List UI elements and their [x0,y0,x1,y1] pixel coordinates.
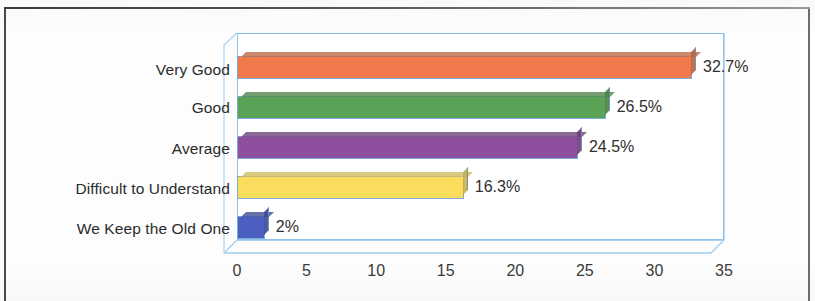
bar-difficult-to-understand [237,176,464,199]
category-label-difficult-to-understand: Difficult to Understand [0,180,230,198]
x-tick-20: 20 [495,262,535,280]
value-label-we-keep-the-old-one: 2% [276,218,299,236]
bar-right-face [577,127,582,155]
x-tick-15: 15 [426,262,466,280]
x-tick-5: 5 [287,262,327,280]
x-tick-30: 30 [634,262,674,280]
value-label-average: 24.5% [589,138,634,156]
bar-right-face [264,207,269,235]
category-label-average: Average [0,140,230,158]
chart-screenshot: Very Good Good Average Difficult to Unde… [0,0,815,301]
bar-rect-good [237,96,606,119]
category-label-good: Good [0,99,230,117]
x-tick-10: 10 [356,262,396,280]
bar-chart: Very Good Good Average Difficult to Unde… [0,0,815,301]
bar-right-face [463,167,468,195]
bar-rect-very-good [237,56,692,79]
x-tick-0: 0 [217,262,257,280]
bar-top-face [241,52,701,57]
bar-average [237,136,578,159]
category-label-we-keep-the-old-one: We Keep the Old One [0,220,230,238]
bar-top-face [241,172,473,177]
x-tick-25: 25 [565,262,605,280]
value-label-difficult-to-understand: 16.3% [475,178,520,196]
bar-top-face [241,92,615,97]
bar-top-face [241,132,587,137]
bar-rect-we-keep-the-old-one [237,216,265,239]
bar-very-good [237,56,692,79]
category-label-very-good: Very Good [0,61,230,79]
bar-rect-average [237,136,578,159]
x-tick-35: 35 [704,262,744,280]
value-label-very-good: 32.7% [703,58,748,76]
bar-we-keep-the-old-one [237,216,265,239]
axis-baseline [237,240,724,241]
value-label-good: 26.5% [617,98,662,116]
bar-rect-difficult-to-understand [237,176,464,199]
bar-right-face [605,87,610,115]
bar-good [237,96,606,119]
